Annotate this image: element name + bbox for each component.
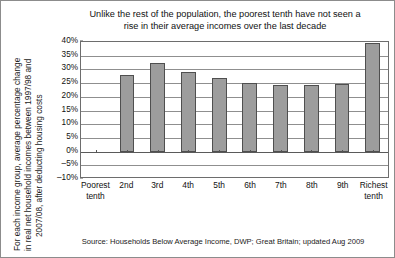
y-axis-label: For each income group, average percentag… (1, 1, 53, 258)
bar-slot (357, 42, 388, 177)
y-axis-label-line-2: in real net household incomes between 19… (23, 59, 33, 251)
bar-slot (204, 42, 235, 177)
x-tick-mark (281, 150, 282, 153)
plot-area (80, 41, 389, 178)
y-tick-label: 5% (66, 133, 78, 141)
x-tick-label-line-1: Richest (360, 180, 388, 190)
y-tick-label: 25% (62, 78, 78, 86)
bar-slot (173, 42, 204, 177)
bar (335, 84, 350, 152)
x-tick-mark (96, 150, 97, 153)
bar-slot (142, 42, 173, 177)
bar-series (81, 42, 388, 177)
x-tick-label: Pooresttenth (80, 180, 111, 210)
bar (150, 63, 165, 151)
y-tick-label: 40% (62, 37, 78, 45)
bar (242, 83, 257, 152)
chart-title-line-2: rise in their average incomes over the l… (57, 20, 393, 32)
bar-slot (235, 42, 266, 177)
x-tick-label-line-1: 2nd (119, 180, 133, 190)
bar-slot (81, 42, 112, 177)
x-tick-mark (373, 150, 374, 153)
x-tick-label: 4th (173, 180, 204, 210)
y-tick-label: –10% (57, 174, 78, 182)
x-tick-label: 9th (327, 180, 358, 210)
x-tick-label-line-1: 8th (306, 180, 318, 190)
x-tick-mark (342, 150, 343, 153)
y-axis-label-line-3: 2007/08, after deducting housing costs (34, 94, 44, 237)
x-tick-label-line-1: 9th (337, 180, 349, 190)
y-tick-label: 30% (62, 64, 78, 72)
chart-title-line-1: Unlike the rest of the population, the p… (57, 8, 393, 20)
x-tick-label: 3rd (142, 180, 173, 210)
bar (181, 72, 196, 151)
x-tick-label-line-1: 5th (213, 180, 225, 190)
x-tick-mark (311, 150, 312, 153)
y-tick-label: –5% (62, 160, 78, 168)
x-tick-label-line-1: 6th (244, 180, 256, 190)
x-tick-label: 2nd (111, 180, 142, 210)
x-tick-mark (250, 150, 251, 153)
bar-slot (265, 42, 296, 177)
y-axis-tick-labels: 40%35%30%25%20%15%10%5%0%–5%–10% (53, 41, 80, 178)
bar (212, 78, 227, 151)
x-tick-label: Richesttenth (358, 180, 389, 210)
bar (120, 75, 135, 152)
bar-slot (296, 42, 327, 177)
x-axis-tick-labels: Pooresttenth2nd3rd4th5th6th7th8th9thRich… (80, 180, 389, 210)
x-tick-label-line-1: 4th (182, 180, 194, 190)
y-tick-label: 20% (62, 92, 78, 100)
x-tick-label-line-2: tenth (358, 191, 389, 202)
x-tick-label-line-1: Poorest (81, 180, 110, 190)
x-tick-label-line-1: 7th (275, 180, 287, 190)
y-tick-label: 35% (62, 51, 78, 59)
bar-slot (112, 42, 143, 177)
source-note: Source: Households Below Average Income,… (53, 237, 393, 246)
x-tick-label: 8th (296, 180, 327, 210)
x-tick-label: 7th (265, 180, 296, 210)
bar (365, 43, 380, 151)
chart-figure: For each income group, average percentag… (0, 0, 395, 258)
x-tick-label: 5th (204, 180, 235, 210)
x-tick-mark (219, 150, 220, 153)
x-tick-mark (127, 150, 128, 153)
x-tick-label-line-1: 3rd (151, 180, 163, 190)
y-axis-label-line-1: For each income group, average percentag… (12, 58, 22, 251)
bar (304, 85, 319, 151)
x-tick-label-line-2: tenth (80, 191, 111, 202)
x-tick-mark (158, 150, 159, 153)
x-tick-label: 6th (235, 180, 266, 210)
x-tick-mark (188, 150, 189, 153)
chart-title: Unlike the rest of the population, the p… (57, 8, 393, 32)
bar (273, 85, 288, 151)
bar-slot (327, 42, 358, 177)
y-tick-label: 15% (62, 106, 78, 114)
y-tick-label: 10% (62, 119, 78, 127)
y-tick-label: 0% (66, 147, 78, 155)
